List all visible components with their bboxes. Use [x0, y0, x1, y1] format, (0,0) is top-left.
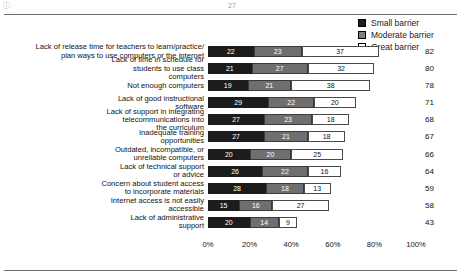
- bar-segment-small: 22: [208, 46, 254, 57]
- chart-row: Outdated, incompatible, or unreliable co…: [0, 147, 461, 162]
- legend-item-moderate-barrier: Moderate barrier: [358, 29, 434, 40]
- bar-segment-great: 18: [312, 114, 349, 125]
- bar-segment-small: 15: [208, 200, 239, 211]
- chart-row: Lack of time in schedule for students to…: [0, 61, 461, 76]
- bar-segment-small: 20: [208, 217, 250, 228]
- stacked-bar: 202025: [208, 149, 416, 160]
- chart-row: Concern about student access to incorpor…: [0, 181, 461, 196]
- x-axis-tick: 0%: [203, 240, 214, 249]
- x-axis: 0%20%40%60%80%100%: [208, 240, 416, 256]
- bar-segment-moderate: 27: [252, 63, 308, 74]
- category-label: Internet access is not easily accessible: [0, 197, 208, 213]
- bar-segment-small: 28: [208, 183, 266, 194]
- x-axis-tick: 20%: [242, 240, 257, 249]
- chart-row: Lack of support in integrating telecommu…: [0, 112, 461, 127]
- row-total: 78: [416, 81, 456, 90]
- bar-segment-moderate: 21: [248, 80, 292, 91]
- stacked-bar: 151627: [208, 200, 416, 211]
- category-label: Outdated, incompatible, or unreliable co…: [0, 146, 208, 162]
- page-number: 27: [228, 1, 236, 10]
- bar-segment-small: 27: [208, 114, 264, 125]
- category-label: Lack of technical support or advice: [0, 163, 208, 179]
- bar-segment-moderate: 21: [264, 131, 308, 142]
- stacked-bar: 212732: [208, 63, 416, 74]
- stacked-bar: 272118: [208, 131, 416, 142]
- chart-row: Lack of administrative support2014943: [0, 215, 461, 230]
- stacked-bar: 262216: [208, 166, 416, 177]
- row-total: 67: [416, 132, 456, 141]
- stacked-bar: 20149: [208, 217, 416, 228]
- chart-rows: Lack of release time for teachers to lea…: [0, 44, 461, 232]
- row-total: 82: [416, 47, 456, 56]
- stacked-bar: 192138: [208, 80, 416, 91]
- row-total: 71: [416, 98, 456, 107]
- category-label: Lack of administrative support: [0, 214, 208, 230]
- category-label: Inadequate training opportunities: [0, 129, 208, 145]
- top-divider: [4, 14, 457, 15]
- bar-segment-small: 21: [208, 63, 252, 74]
- x-axis-tick: 100%: [406, 240, 425, 249]
- bar-segment-small: 19: [208, 80, 248, 91]
- bar-segment-moderate: 23: [264, 114, 312, 125]
- bar-segment-great: 13: [304, 183, 331, 194]
- legend-swatch-small-barrier-icon: [358, 19, 366, 27]
- stacked-bar-chart: Lack of release time for teachers to lea…: [0, 44, 461, 259]
- legend-label-moderate-barrier: Moderate barrier: [371, 30, 434, 40]
- bar-segment-great: 25: [291, 149, 343, 160]
- x-axis-tick: 80%: [367, 240, 382, 249]
- corner-mark: ⓘ: [3, 1, 10, 10]
- bar-segment-great: 32: [308, 63, 375, 74]
- chart-row: Inadequate training opportunities2721186…: [0, 129, 461, 144]
- stacked-bar: 222337: [208, 46, 416, 57]
- row-total: 59: [416, 184, 456, 193]
- bar-segment-moderate: 14: [250, 217, 279, 228]
- bar-segment-great: 38: [291, 80, 370, 91]
- category-label: Lack of time in schedule for students to…: [0, 56, 208, 80]
- bar-segment-small: 20: [208, 149, 250, 160]
- bar-segment-moderate: 22: [262, 166, 308, 177]
- bar-segment-great: 37: [302, 46, 379, 57]
- bar-segment-moderate: 18: [266, 183, 303, 194]
- bar-segment-moderate: 22: [268, 97, 314, 108]
- category-label: Not enough computers: [0, 82, 208, 90]
- bottom-divider: [4, 270, 457, 271]
- legend-item-small-barrier: Small barrier: [358, 17, 434, 28]
- x-axis-tick: 60%: [325, 240, 340, 249]
- row-total: 66: [416, 150, 456, 159]
- bar-segment-great: 27: [272, 200, 328, 211]
- chart-row: Lack of technical support or advice26221…: [0, 164, 461, 179]
- bar-segment-small: 26: [208, 166, 262, 177]
- bar-segment-small: 29: [208, 97, 268, 108]
- bar-segment-great: 20: [314, 97, 356, 108]
- legend-label-small-barrier: Small barrier: [371, 18, 419, 28]
- chart-row: Internet access is not easily accessible…: [0, 198, 461, 213]
- chart-page: ⓘ 27 Small barrier Moderate barrier Grea…: [0, 0, 461, 279]
- bar-segment-moderate: 16: [239, 200, 272, 211]
- row-total: 64: [416, 167, 456, 176]
- bar-segment-moderate: 20: [250, 149, 292, 160]
- bar-segment-small: 27: [208, 131, 264, 142]
- row-total: 43: [416, 218, 456, 227]
- row-total: 58: [416, 201, 456, 210]
- stacked-bar: 272318: [208, 114, 416, 125]
- bar-segment-great: 18: [308, 131, 345, 142]
- legend-swatch-moderate-barrier-icon: [358, 31, 366, 39]
- bar-segment-great: 9: [279, 217, 298, 228]
- stacked-bar: 281813: [208, 183, 416, 194]
- row-total: 80: [416, 64, 456, 73]
- stacked-bar: 292220: [208, 97, 416, 108]
- category-label: Concern about student access to incorpor…: [0, 180, 208, 196]
- bar-segment-moderate: 23: [254, 46, 302, 57]
- row-total: 68: [416, 115, 456, 124]
- x-axis-tick: 40%: [284, 240, 299, 249]
- bar-segment-great: 16: [308, 166, 341, 177]
